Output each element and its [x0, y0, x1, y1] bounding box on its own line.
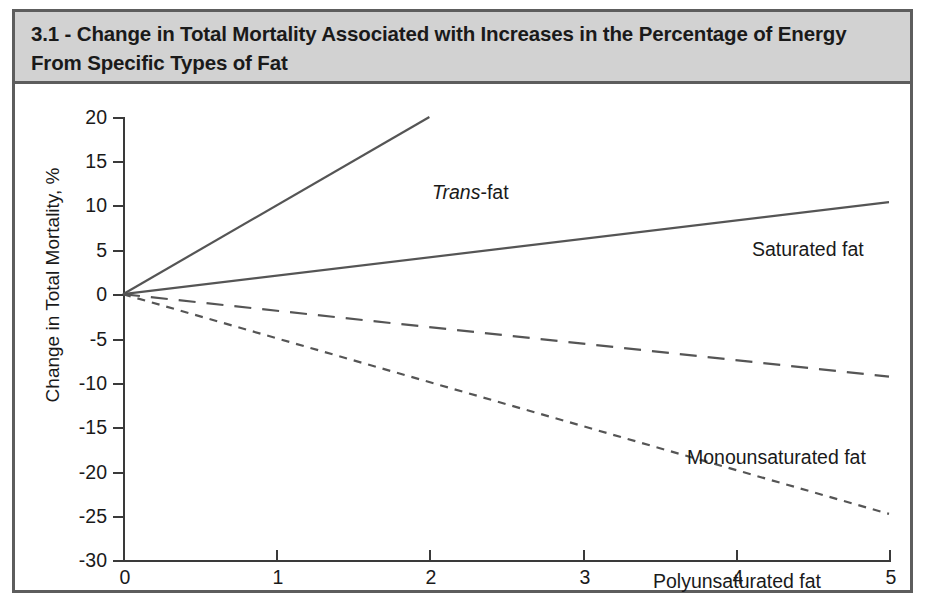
page-title: 3.1 - Change in Total Mortality Associat… [31, 19, 896, 77]
series-label-trans-fat: Trans-fat [432, 181, 509, 204]
series-svg [15, 84, 910, 590]
series-label-trans-suffix: -fat [480, 181, 508, 203]
series-label-polyunsaturated-fat: Polyunsaturated fat [653, 570, 821, 593]
series-line-monounsaturated-fat [123, 294, 889, 376]
figure-title-bar: 3.1 - Change in Total Mortality Associat… [15, 12, 910, 84]
series-label-trans-italic: Trans [432, 181, 480, 203]
series-label-saturated-fat: Saturated fat [752, 238, 864, 261]
series-line-polyunsaturated-fat [123, 294, 889, 514]
series-label-monounsaturated-fat: Monounsaturated fat [687, 446, 866, 469]
figure-panel: 3.1 - Change in Total Mortality Associat… [12, 9, 913, 593]
plot-area: Change in Total Mortality, % 20 15 10 5 … [15, 84, 910, 590]
series-line-trans-fat [123, 117, 429, 294]
